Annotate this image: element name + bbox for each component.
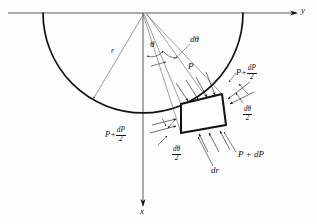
differential-element	[181, 94, 226, 133]
p-dp-half-right-leader	[229, 73, 236, 82]
pressure-P-plus-dP-label: P + dP	[238, 150, 264, 159]
dtheta-numerator-right: dθ	[243, 106, 252, 113]
dP-numerator-right: dP	[247, 65, 257, 72]
dP-over-2-right: dP 2	[247, 65, 257, 81]
axis-horizontal	[8, 10, 298, 15]
axis-label-x: x	[140, 207, 144, 216]
radius-label: r	[111, 47, 114, 55]
pressure-P-plus-dP-half-left-label: P+ dP 2	[105, 124, 126, 143]
dtheta-label: dθ	[190, 35, 199, 44]
radius-dimension-line	[94, 15, 144, 99]
axis-label-y: y	[301, 6, 305, 15]
two-denominator-left: 2	[116, 135, 126, 143]
pressure-P-plus-dP-half-right-label: P+ dP 2	[236, 62, 257, 81]
dtheta-half-left-label: dθ 2	[172, 140, 181, 162]
two-denominator-right: 2	[247, 73, 257, 81]
dtheta-numerator-left: dθ	[172, 146, 181, 153]
p-dp-half-left-leader	[162, 118, 166, 126]
dtheta-half-right-label: dθ 2	[243, 100, 252, 122]
dr-leader	[198, 137, 213, 166]
dP-over-2-left: dP 2	[116, 127, 126, 143]
dtheta-over-2-right: dθ 2	[243, 106, 252, 122]
two-denominator-dtheta-left: 2	[172, 154, 181, 162]
dtheta-over-2-left: dθ 2	[172, 146, 181, 162]
force-arrows-P-dP-half-left	[150, 119, 176, 133]
dP-numerator-left: dP	[116, 127, 126, 134]
theta-label: θ	[150, 40, 154, 49]
two-denominator-dtheta-right: 2	[243, 114, 252, 122]
figure-canvas: y x r θ dθ P P+ dP 2 dθ 2 P+ dP 2 dθ	[0, 0, 317, 224]
diagram-svg	[0, 0, 317, 224]
dr-label: dr	[211, 166, 219, 175]
pressure-P-label: P	[188, 62, 194, 71]
axis-vertical	[140, 13, 145, 207]
